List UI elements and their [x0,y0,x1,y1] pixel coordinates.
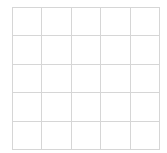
grid [12,7,160,150]
grid-cell-r3-c1 [13,65,42,93]
grid-cell-r3-c4 [101,65,130,93]
grid-cell-r4-c4 [101,93,130,121]
grid-cell-r4-c1 [13,93,42,121]
grid-cell-r5-c1 [13,122,42,150]
grid-cell-r1-c4 [101,8,130,36]
grid-cell-r2-c1 [13,36,42,64]
grid-cell-r5-c3 [72,122,101,150]
grid-cell-r5-c4 [101,122,130,150]
grid-cell-r1-c3 [72,8,101,36]
grid-cell-r3-c5 [131,65,160,93]
grid-cell-r2-c2 [42,36,71,64]
canvas [0,0,167,153]
grid-cell-r5-c5 [131,122,160,150]
grid-cell-r4-c2 [42,93,71,121]
grid-cell-r5-c2 [42,122,71,150]
grid-cell-r1-c1 [13,8,42,36]
grid-cell-r3-c3 [72,65,101,93]
grid-cell-r1-c5 [131,8,160,36]
grid-cell-r1-c2 [42,8,71,36]
grid-cell-r2-c3 [72,36,101,64]
grid-cell-r4-c3 [72,93,101,121]
grid-cell-r4-c5 [131,93,160,121]
grid-cell-r3-c2 [42,65,71,93]
grid-cell-r2-c5 [131,36,160,64]
grid-cell-r2-c4 [101,36,130,64]
